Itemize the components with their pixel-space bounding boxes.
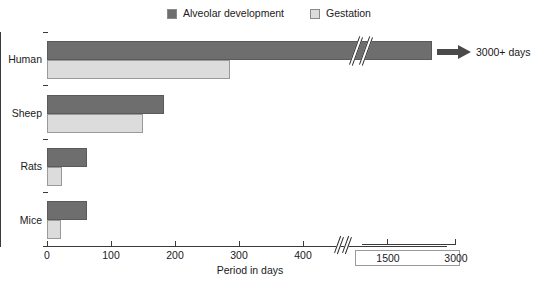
bar-rats-gestation (47, 167, 62, 186)
inset-tick-3000 (455, 239, 456, 244)
right-arrow-icon (437, 45, 471, 59)
y-tick-3 (43, 192, 48, 193)
arrow-annotation: 3000+ days (437, 45, 531, 59)
legend-swatch-gestation (310, 9, 320, 19)
x-tick-label-300: 300 (219, 249, 259, 261)
y-tick-1 (43, 85, 48, 86)
x-tick-label-200: 200 (155, 249, 195, 261)
x-tick-200 (175, 241, 176, 246)
category-label-human: Human (0, 53, 42, 65)
x-tick-label-0: 0 (27, 249, 67, 261)
inset-scale-box: 1500 3000 (355, 250, 460, 266)
category-label-sheep: Sheep (0, 107, 42, 119)
inset-label-1500: 1500 (368, 252, 408, 265)
y-tick-0 (43, 32, 48, 33)
inset-axis-line (362, 244, 456, 245)
x-tick-300 (239, 241, 240, 246)
legend-label-alveolar: Alveolar development (183, 8, 284, 19)
inset-label-3000: 3000 (436, 252, 476, 265)
x-tick-label-400: 400 (283, 249, 323, 261)
x-axis-line (47, 246, 447, 247)
x-axis-title: Period in days (130, 264, 370, 276)
bar-human-alveolar (47, 41, 432, 60)
x-tick-label-100: 100 (91, 249, 131, 261)
bar-mice-alveolar (47, 201, 87, 220)
alveolar-development-chart: Alveolar development Gestation Human She… (0, 0, 538, 285)
chart-legend: Alveolar development Gestation (0, 8, 538, 19)
legend-label-gestation: Gestation (326, 8, 371, 19)
y-tick-4 (43, 246, 48, 247)
category-label-mice: Mice (0, 214, 42, 226)
bar-human-gestation (47, 60, 230, 79)
arrow-annotation-label: 3000+ days (476, 46, 531, 58)
legend-item-alveolar: Alveolar development (167, 8, 284, 19)
x-tick-0 (47, 241, 48, 246)
bar-rats-alveolar (47, 148, 87, 167)
inset-tick-1500 (387, 239, 388, 244)
legend-item-gestation: Gestation (310, 8, 371, 19)
bar-sheep-alveolar (47, 95, 164, 114)
x-tick-400 (303, 241, 304, 246)
legend-swatch-alveolar (167, 9, 177, 19)
bar-sheep-gestation (47, 114, 143, 133)
bar-mice-gestation (47, 220, 61, 239)
category-label-rats: Rats (0, 160, 42, 172)
y-tick-2 (43, 139, 48, 140)
x-tick-100 (111, 241, 112, 246)
axis-break-mark-axis-2 (342, 236, 352, 254)
